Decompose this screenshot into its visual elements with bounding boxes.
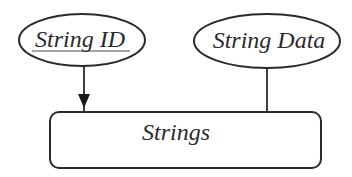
attribute-string-data[interactable]: String Data: [194, 14, 340, 68]
entity-strings[interactable]: Strings: [50, 112, 321, 168]
attribute-label-string-id: String ID: [35, 26, 125, 52]
attribute-string-id[interactable]: String ID: [19, 14, 145, 66]
connector-string-id: [78, 66, 90, 112]
er-diagram: String ID String Data Strings: [0, 0, 352, 177]
arrow-down-icon: [78, 94, 90, 108]
attribute-label-string-data: String Data: [213, 27, 326, 53]
entity-label-strings: Strings: [142, 119, 210, 145]
